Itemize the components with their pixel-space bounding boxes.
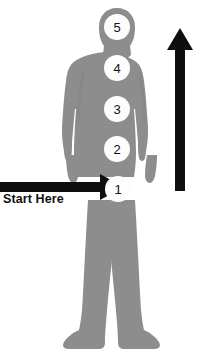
start-here-label: Start Here xyxy=(3,192,64,206)
point-marker-1[interactable]: 1 xyxy=(105,176,131,202)
point-label-4: 4 xyxy=(113,62,120,75)
diagram-graphics xyxy=(0,0,201,356)
point-label-3: 3 xyxy=(113,103,120,116)
silhouette-right-leg xyxy=(107,200,160,349)
diagram-canvas: 1 2 3 4 5 Start Here xyxy=(0,0,201,356)
point-marker-2[interactable]: 2 xyxy=(104,136,130,162)
point-marker-5[interactable]: 5 xyxy=(104,14,130,40)
direction-arrow-up xyxy=(167,28,193,191)
silhouette-left-hand xyxy=(66,155,78,183)
silhouette-right-hand xyxy=(145,155,157,183)
point-marker-3[interactable]: 3 xyxy=(104,96,130,122)
point-marker-4[interactable]: 4 xyxy=(104,55,130,81)
point-label-5: 5 xyxy=(113,21,120,34)
point-label-1: 1 xyxy=(114,183,121,196)
point-label-2: 2 xyxy=(113,143,120,156)
